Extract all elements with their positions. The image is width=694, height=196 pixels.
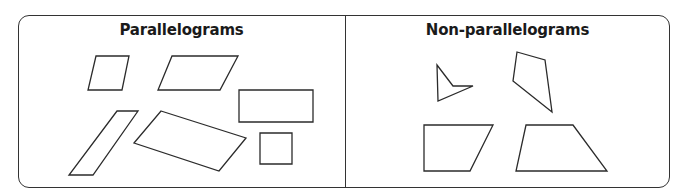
shape-parallelogram-wide (158, 56, 238, 90)
parallelograms-group (69, 56, 313, 175)
shape-rectangle-tilted (134, 111, 246, 171)
shape-rectangle (239, 90, 313, 122)
shape-kite-irregular (513, 52, 552, 112)
non-parallelograms-group (424, 52, 607, 171)
shape-trapezoid (516, 125, 607, 171)
shape-parallelogram-tall-slanted (69, 111, 138, 175)
shapes-canvas (0, 0, 694, 196)
shape-rhombus-small (88, 56, 129, 90)
shape-square (260, 133, 292, 164)
shape-right-trapezoid (424, 125, 493, 171)
shape-concave-quadrilateral (437, 65, 473, 101)
